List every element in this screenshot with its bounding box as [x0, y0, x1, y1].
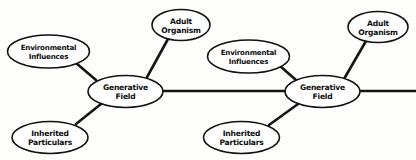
- edge-env2-to-field2: [280, 66, 296, 80]
- edge-inherited1-to-field1: [76, 104, 101, 124]
- adult-organism-node-1-label-line1: Adult: [170, 17, 193, 26]
- generative-field-node-1[interactable]: GenerativeField: [88, 76, 163, 108]
- inherited-particulars-node-2[interactable]: InheritedParticulars: [204, 122, 280, 154]
- generative-field-node-1-label-line2: Field: [116, 92, 136, 101]
- adult-organism-node-1[interactable]: AdultOrganism: [152, 10, 210, 41]
- edge-inherited2-to-field2: [269, 104, 298, 125]
- edge-field1-to-adult1: [146, 39, 168, 79]
- generative-field-node-1-label-line1: Generative: [103, 83, 148, 92]
- environmental-influences-node-1-label-line2: Influences: [29, 52, 68, 61]
- generative-field-node-2[interactable]: GenerativeField: [285, 76, 360, 108]
- inherited-particulars-node-1-label-line1: Inherited: [31, 129, 69, 138]
- adult-organism-node-2-label-line1: Adult: [367, 19, 390, 28]
- adult-organism-node-2[interactable]: AdultOrganism: [348, 12, 408, 43]
- inherited-particulars-node-2-label-line2: Particulars: [219, 138, 264, 147]
- environmental-influences-node-1-label: EnvironmentalInfluences: [21, 43, 77, 60]
- inherited-particulars-node-2-label-line1: Inherited: [223, 129, 261, 138]
- adult-organism-node-1-label-line2: Organism: [161, 26, 201, 35]
- adult-organism-node-2-label-line2: Organism: [358, 28, 398, 37]
- environmental-influences-node-1[interactable]: EnvironmentalInfluences: [8, 35, 90, 68]
- environmental-influences-node-2-label-line2: Influences: [229, 57, 268, 66]
- diagram-canvas: EnvironmentalInfluencesAdultOrganismGene…: [0, 0, 416, 160]
- edge-field2-to-adult2: [344, 41, 366, 79]
- generative-field-node-2-label-line1: Generative: [300, 83, 345, 92]
- environmental-influences-node-2[interactable]: EnvironmentalInfluences: [208, 40, 290, 73]
- inherited-particulars-node-1-label-line2: Particulars: [28, 138, 73, 147]
- generative-field-diagram: EnvironmentalInfluencesAdultOrganismGene…: [0, 0, 416, 160]
- edge-env1-to-field1: [76, 63, 96, 80]
- inherited-particulars-node-1[interactable]: InheritedParticulars: [12, 122, 88, 154]
- environmental-influences-node-2-label: EnvironmentalInfluences: [221, 48, 277, 65]
- inherited-particulars-node-1-label: InheritedParticulars: [28, 129, 73, 147]
- inherited-particulars-node-2-label: InheritedParticulars: [219, 129, 264, 147]
- generative-field-node-2-label-line2: Field: [313, 92, 333, 101]
- nodes-layer: EnvironmentalInfluencesAdultOrganismGene…: [8, 10, 409, 154]
